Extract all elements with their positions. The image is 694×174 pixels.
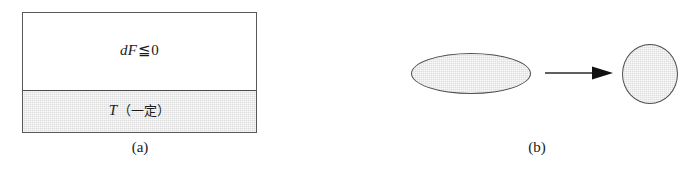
free-energy-condition-value: 0	[151, 42, 159, 58]
free-energy-condition-label: dF≦0	[120, 43, 159, 60]
panel-b-caption: (b)	[515, 140, 559, 155]
panel-a-lower-reservoir-region: T（一定）	[23, 90, 256, 132]
temperature-label: T（一定）	[109, 103, 170, 120]
round-ellipse-shape-after	[622, 44, 678, 104]
panel-a-system-box: dF≦0 T（一定）	[22, 12, 257, 133]
flat-ellipse-shape-before	[411, 53, 531, 94]
panel-a-caption: (a)	[118, 140, 162, 155]
figure-container: dF≦0 T（一定） (a) (b)	[0, 0, 694, 174]
transformation-arrow-icon	[544, 60, 614, 86]
temperature-symbol: T	[109, 102, 117, 118]
temperature-constant-annotation: （一定）	[118, 103, 170, 118]
differential-free-energy-symbol: dF	[120, 42, 137, 58]
panel-a-upper-region: dF≦0	[23, 13, 256, 90]
less-than-or-equal-symbol: ≦	[138, 42, 151, 58]
